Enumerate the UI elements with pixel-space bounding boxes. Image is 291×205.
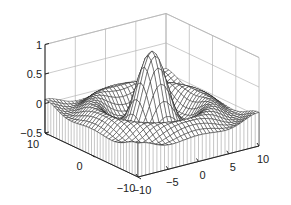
z-tick <box>45 73 49 74</box>
surface-plot: 10.50−0.5100−10−10−50510 <box>0 0 291 205</box>
y-tick-label: 5 <box>230 161 236 173</box>
y-tick-label: −5 <box>166 176 179 188</box>
x-tick-label: 10 <box>27 138 39 150</box>
y-tick-label: 10 <box>257 153 269 165</box>
z-tick-label: 0.5 <box>27 68 42 80</box>
y-tick-label: −10 <box>133 184 152 196</box>
x-tick <box>138 177 141 179</box>
z-tick <box>45 44 49 45</box>
y-tick-label: 0 <box>199 169 205 181</box>
x-tick-label: 0 <box>76 160 82 172</box>
z-tick-label: 1 <box>36 39 42 51</box>
mesh-surface <box>45 51 259 177</box>
z-tick-label: 0 <box>36 98 42 110</box>
